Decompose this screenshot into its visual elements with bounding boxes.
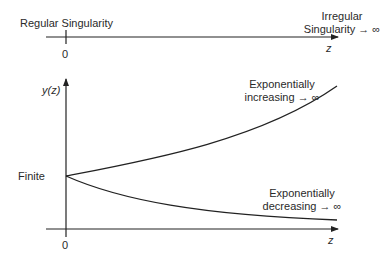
y-axis-label: y(z): [42, 84, 60, 97]
increasing-label-line2: increasing → ∞: [236, 91, 328, 104]
finite-label: Finite: [18, 170, 45, 183]
increasing-label-line1: Exponentially: [236, 78, 328, 91]
plot-origin-label: 0: [62, 239, 68, 252]
decreasing-label: Exponentially decreasing → ∞: [256, 187, 348, 213]
top-z-axis-label: z: [326, 42, 332, 55]
decreasing-label-line1: Exponentially: [256, 187, 348, 200]
irregular-label-line2: Singularity → ∞: [298, 23, 386, 36]
diagram-canvas: [0, 0, 392, 264]
decreasing-label-line2: decreasing → ∞: [256, 200, 348, 213]
increasing-label: Exponentially increasing → ∞: [236, 78, 328, 104]
x-axis-label: z: [328, 234, 334, 247]
regular-singularity-label: Regular Singularity: [20, 17, 113, 30]
top-origin-label: 0: [62, 48, 68, 61]
irregular-singularity-label: Irregular Singularity → ∞: [298, 10, 386, 36]
irregular-label-line1: Irregular: [298, 10, 386, 23]
